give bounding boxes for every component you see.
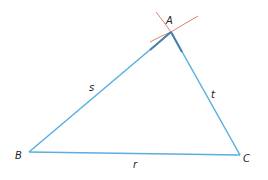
side-t-overlap <box>171 32 182 52</box>
side-r <box>29 152 240 155</box>
side-label-r: r <box>133 159 138 170</box>
side-s-overlap <box>150 32 171 50</box>
vertex-label-c: C <box>243 153 250 164</box>
side-label-t: t <box>211 89 216 100</box>
vertex-label-a: A <box>165 15 173 26</box>
vertex-label-b: B <box>15 150 22 161</box>
triangle-diagram: A B C s t r <box>0 0 268 180</box>
side-label-s: s <box>89 82 94 93</box>
side-s <box>29 32 171 152</box>
